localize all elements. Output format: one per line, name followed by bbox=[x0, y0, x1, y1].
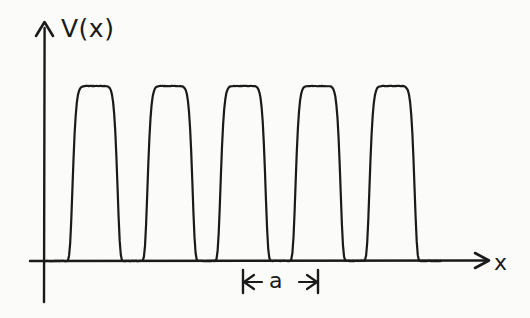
plot-canvas bbox=[0, 0, 530, 318]
period-label: a bbox=[269, 268, 283, 293]
potential-diagram-figure: V(x) x a bbox=[0, 0, 530, 318]
potential-curve-group bbox=[46, 86, 441, 261]
x-axis-label: x bbox=[494, 250, 508, 275]
y-axis-label: V(x) bbox=[61, 14, 114, 43]
potential-barrier-curve bbox=[46, 86, 441, 261]
